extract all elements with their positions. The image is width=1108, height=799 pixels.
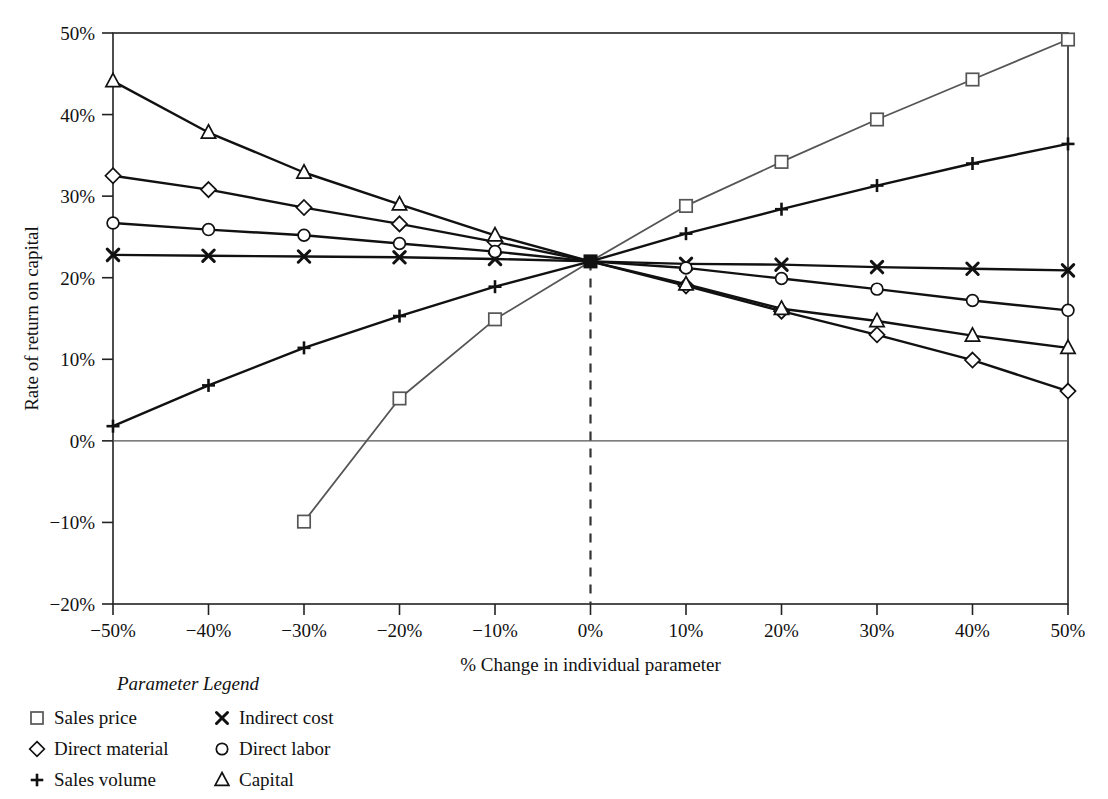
legend-label: Sales price <box>54 707 137 728</box>
y-axis-title: Rate of return on capital <box>21 226 42 411</box>
x-tick-label: 0% <box>578 620 604 641</box>
legend-item-sales-volume[interactable]: Sales volume <box>31 769 156 790</box>
x-tick-label: −40% <box>186 620 232 641</box>
series-capital <box>106 73 1075 353</box>
y-tick-label: 20% <box>60 268 95 289</box>
legend-label: Indirect cost <box>239 707 334 728</box>
legend-item-sales-price[interactable]: Sales price <box>31 707 137 728</box>
x-tick-label: −30% <box>281 620 327 641</box>
x-tick-label: 10% <box>669 620 704 641</box>
series-line <box>113 81 1068 348</box>
legend-item-direct-material[interactable]: Direct material <box>30 738 169 759</box>
x-tick-label: 30% <box>860 620 895 641</box>
legend-item-direct-labor[interactable]: Direct labor <box>216 738 331 759</box>
y-tick-label: 30% <box>60 186 95 207</box>
legend-label: Sales volume <box>54 769 156 790</box>
sensitivity-chart-figure: 50%40%30%20%10%0%−10%−20%−50%−40%−30%−20… <box>0 0 1108 799</box>
legend-label: Direct material <box>54 738 168 759</box>
x-tick-label: 20% <box>764 620 799 641</box>
legend-label: Capital <box>239 769 294 790</box>
legend-item-indirect-cost[interactable]: Indirect cost <box>216 707 334 728</box>
x-axis-title: % Change in individual parameter <box>460 654 721 675</box>
x-tick-label: −20% <box>377 620 423 641</box>
chart-canvas: 50%40%30%20%10%0%−10%−20%−50%−40%−30%−20… <box>0 0 1108 799</box>
y-tick-label: −10% <box>49 512 95 533</box>
base-case-marker <box>584 254 598 268</box>
x-tick-label: −10% <box>472 620 518 641</box>
y-tick-label: 50% <box>60 23 95 44</box>
y-tick-label: 40% <box>60 105 95 126</box>
x-tick-label: −50% <box>90 620 136 641</box>
y-tick-label: 0% <box>70 431 96 452</box>
legend-title: Parameter Legend <box>116 673 259 694</box>
y-tick-label: −20% <box>49 594 95 615</box>
x-tick-label: 40% <box>955 620 990 641</box>
legend-label: Direct labor <box>239 738 331 759</box>
y-tick-label: 10% <box>60 349 95 370</box>
x-tick-label: 50% <box>1051 620 1086 641</box>
legend-item-capital[interactable]: Capital <box>215 769 294 790</box>
